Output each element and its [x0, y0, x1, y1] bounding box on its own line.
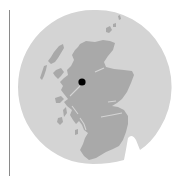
location-marker-dot [78, 78, 85, 85]
arran [75, 129, 78, 135]
locator-map [0, 0, 178, 178]
